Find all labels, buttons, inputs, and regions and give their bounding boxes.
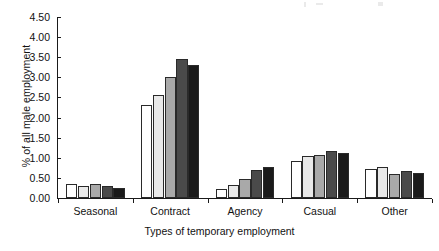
bar xyxy=(216,189,227,198)
x-axis-tick-label: Seasonal xyxy=(73,205,117,217)
bar xyxy=(314,155,325,198)
y-axis-tick-label: 1.50 xyxy=(30,132,50,144)
y-axis-tick-mark xyxy=(57,118,61,119)
y-axis-tick-labels: 0.000.501.001.502.002.503.003.504.004.50 xyxy=(0,0,56,251)
x-axis-tick-label: Agency xyxy=(227,205,262,217)
bar xyxy=(90,184,101,198)
bar xyxy=(263,167,274,198)
bar xyxy=(176,59,187,198)
x-axis-tick-label: Other xyxy=(381,205,407,217)
y-axis-tick-mark xyxy=(57,138,61,139)
y-axis-tick-label: 4.00 xyxy=(30,31,50,43)
bar xyxy=(66,184,77,198)
y-axis-tick-label: 3.00 xyxy=(30,71,50,83)
bar-group xyxy=(365,17,423,198)
bar xyxy=(102,186,113,198)
bar xyxy=(365,169,376,198)
x-axis-tick-mark xyxy=(58,199,59,203)
bar-group xyxy=(141,17,199,198)
x-axis-tick-mark xyxy=(357,199,358,203)
bar xyxy=(141,105,152,198)
y-axis-tick-mark xyxy=(57,198,61,199)
bar xyxy=(188,65,199,198)
bar xyxy=(251,170,262,198)
x-axis-tick-mark xyxy=(133,199,134,203)
bar-chart: % of all male employment 0.000.501.001.5… xyxy=(0,0,439,251)
y-axis-tick-mark xyxy=(57,17,61,18)
y-axis-tick-mark xyxy=(57,37,61,38)
bar xyxy=(326,151,337,198)
bar-group xyxy=(291,17,349,198)
y-axis-tick-mark xyxy=(57,178,61,179)
y-axis-tick-mark xyxy=(57,77,61,78)
bar xyxy=(302,156,313,198)
x-axis-tick-label: Casual xyxy=(303,205,336,217)
x-axis-title: Types of temporary employment xyxy=(0,225,439,237)
bar xyxy=(113,188,124,198)
y-axis-tick-label: 0.00 xyxy=(30,192,50,204)
y-axis-tick-label: 3.50 xyxy=(30,51,50,63)
plot-area xyxy=(58,17,432,198)
y-axis-tick-label: 2.00 xyxy=(30,112,50,124)
x-axis-tick-mark xyxy=(432,199,433,203)
bar xyxy=(413,173,424,198)
y-axis-tick-mark xyxy=(57,57,61,58)
bar xyxy=(389,174,400,198)
bar xyxy=(377,167,388,198)
x-axis-tick-mark xyxy=(208,199,209,203)
bar xyxy=(401,171,412,198)
x-axis-tick-mark xyxy=(282,199,283,203)
bar-group xyxy=(216,17,274,198)
bar xyxy=(228,185,239,198)
bar xyxy=(78,186,89,198)
bar xyxy=(153,95,164,198)
x-axis-line xyxy=(57,198,432,199)
y-axis-tick-mark xyxy=(57,158,61,159)
y-axis-tick-label: 2.50 xyxy=(30,91,50,103)
scan-artifact xyxy=(300,2,430,9)
bar xyxy=(291,161,302,198)
bar xyxy=(338,153,349,198)
bar xyxy=(165,77,176,198)
x-axis-tick-label: Contract xyxy=(150,205,190,217)
bar-group xyxy=(66,17,124,198)
y-axis-tick-label: 1.00 xyxy=(30,152,50,164)
y-axis-tick-mark xyxy=(57,97,61,98)
bar xyxy=(239,179,250,198)
y-axis-tick-label: 0.50 xyxy=(30,172,50,184)
y-axis-tick-label: 4.50 xyxy=(30,11,50,23)
